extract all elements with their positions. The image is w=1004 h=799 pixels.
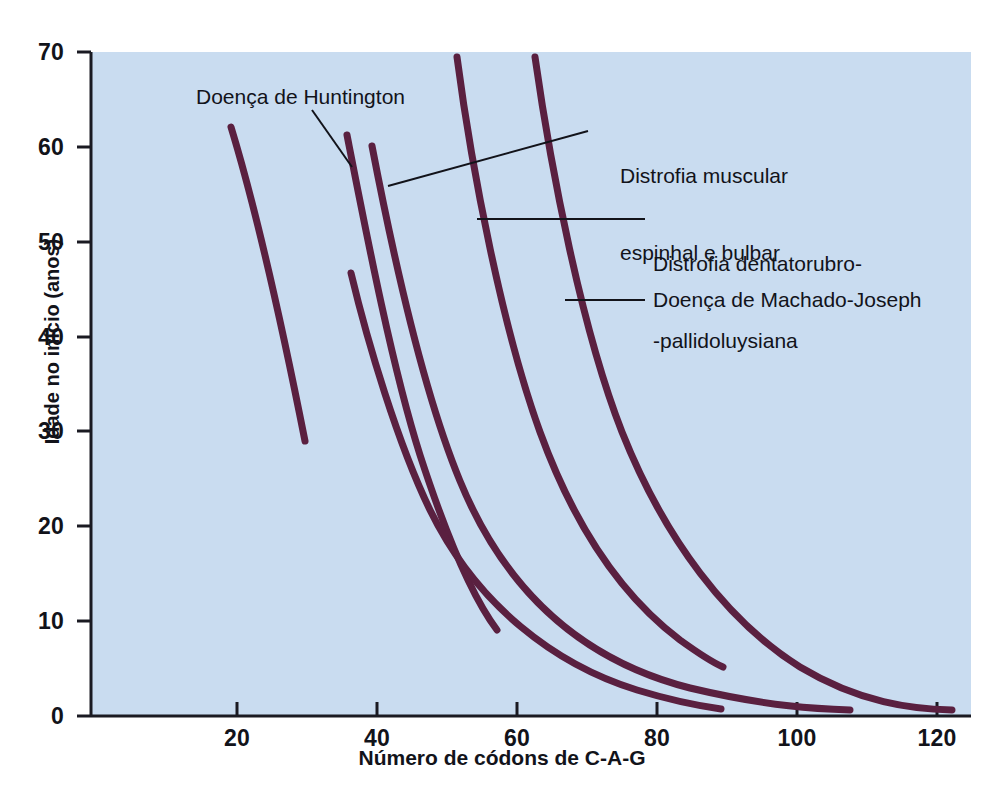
chart-figure: 70 60 50 40 30 20 10 0 20 40 60 80 100 1… (0, 0, 1004, 799)
y-axis-ticks (77, 52, 91, 716)
y-tick-label-70: 70 (18, 39, 64, 66)
annotation-distrofia-dentatorubro-line2: -pallidoluysiana (653, 328, 862, 354)
y-tick-label-0: 0 (18, 703, 64, 730)
annotation-distrofia-muscular-line1: Distrofia muscular (620, 163, 788, 189)
y-tick-label-60: 60 (18, 134, 64, 161)
y-tick-label-20: 20 (18, 513, 64, 540)
y-axis-title: Idade no início (anos) (41, 212, 64, 472)
annotation-distrofia-dentatorubro-line1: Distrofia dentatorubro- (653, 251, 862, 277)
annotation-huntington: Doença de Huntington (196, 84, 405, 110)
x-axis-title: Número de códons de C-A-G (0, 746, 1004, 770)
y-tick-label-10: 10 (18, 608, 64, 635)
annotation-machado-joseph: Doença de Machado-Joseph (653, 287, 922, 313)
